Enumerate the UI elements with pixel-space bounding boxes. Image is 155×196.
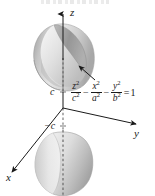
z-axis-label: z [70, 7, 74, 18]
equation-operator-1: − [81, 87, 90, 98]
upper-sheet [34, 24, 95, 91]
y-axis [63, 108, 136, 124]
equation-term-y: y2 b2 [111, 82, 122, 103]
hyperboloid-two-sheets-figure: z y x c −c z2 c2 − x2 a2 − y2 b2 = 1 [0, 0, 155, 196]
equation-term-x: x2 a2 [91, 82, 102, 103]
equation-term-z: z2 c2 [71, 82, 81, 103]
lower-sheet [35, 132, 93, 196]
tick-label-negative-c: −c [44, 121, 55, 131]
surface-equation: z2 c2 − x2 a2 − y2 b2 = 1 [70, 82, 135, 103]
equation-relation: = [123, 87, 130, 98]
equation-right-hand-side: 1 [129, 87, 135, 98]
y-axis-label: y [134, 128, 139, 139]
tick-label-positive-c: c [50, 87, 54, 97]
x-axis-label: x [6, 172, 11, 183]
equation-operator-2: − [102, 87, 111, 98]
